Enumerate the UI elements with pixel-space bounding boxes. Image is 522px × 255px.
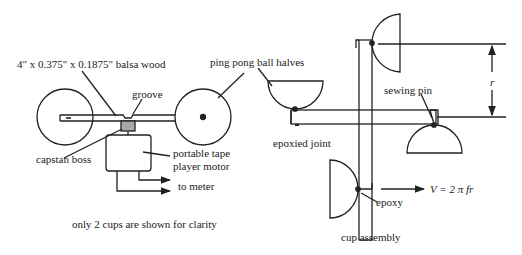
motor-label-line1: portable tape <box>173 147 230 159</box>
capstan-boss <box>121 121 135 131</box>
diagram-graphics <box>0 0 522 255</box>
cup-center-dot <box>201 115 206 120</box>
left-cup-circle <box>37 89 93 145</box>
groove-label: groove <box>132 88 163 100</box>
horizontal-arm <box>291 110 438 124</box>
anemometer-diagram: 4" x 0.375" x 0.1875" balsa wood groove … <box>0 0 522 255</box>
to-meter-label: to meter <box>178 180 214 192</box>
epoxy-label: epoxy <box>376 196 403 208</box>
cup-assembly-caption: cup assembly <box>341 231 401 243</box>
velocity-formula: V = 2 π fr <box>430 183 473 195</box>
left-cup-bowl <box>268 81 323 109</box>
top-cup <box>372 14 400 72</box>
epoxied-joint-label: epoxied joint <box>273 137 331 149</box>
right-cup-dome <box>407 125 462 153</box>
balsa-arm <box>60 115 175 121</box>
radius-label: r <box>490 76 494 88</box>
ping-pong-label: ping pong ball halves <box>210 56 304 68</box>
lead-1 <box>139 171 170 180</box>
vertical-post <box>359 40 372 240</box>
sewing-pin-label: sewing pin <box>384 84 432 96</box>
balsa-wood-label: 4" x 0.375" x 0.1875" balsa wood <box>17 58 166 70</box>
motor-label-line2: player motor <box>173 160 230 172</box>
capstan-boss-label: capstan boss <box>36 153 91 165</box>
lead-2 <box>117 171 170 191</box>
motor-box <box>106 135 151 171</box>
left-caption: only 2 cups are shown for clarity <box>72 218 217 230</box>
bottom-cup <box>330 160 358 218</box>
